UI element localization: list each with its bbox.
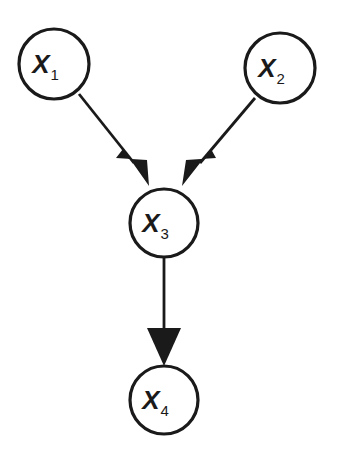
causal-dag-figure: X1 X2 X3 X4 — [0, 0, 338, 460]
node-x3: X3 — [130, 189, 198, 257]
node-x3-label-main: X — [140, 208, 161, 238]
node-x1: X1 — [19, 29, 89, 99]
node-x1-label-subscript: 1 — [51, 66, 59, 83]
dag-canvas: X1 X2 X3 X4 — [0, 0, 338, 460]
node-x3-label-subscript: 3 — [161, 225, 169, 242]
node-x3-circle — [130, 189, 198, 257]
node-x1-label-main: X — [30, 49, 51, 79]
node-x1-circle — [19, 29, 89, 99]
node-x2-label-main: X — [256, 53, 277, 83]
node-x4-label-main: X — [140, 385, 161, 415]
node-x2-label-subscript: 2 — [277, 70, 285, 87]
node-x2: X2 — [245, 33, 315, 103]
node-x4: X4 — [130, 366, 198, 434]
node-x2-circle — [245, 33, 315, 103]
node-x4-circle — [130, 366, 198, 434]
node-x4-label-subscript: 4 — [161, 402, 169, 419]
